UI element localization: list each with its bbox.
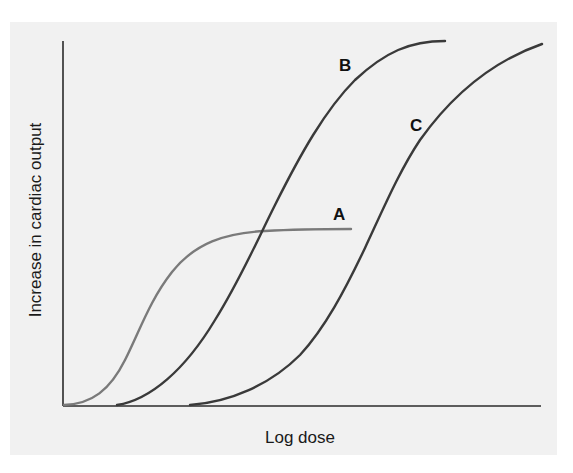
curve-a	[64, 229, 351, 405]
curve-label-c: C	[410, 116, 422, 135]
curve-label-b: B	[339, 56, 351, 75]
curve-b	[117, 41, 445, 405]
curve-label-a: A	[333, 205, 345, 224]
curve-c	[190, 44, 542, 405]
y-axis-title: Increase in cardiac output	[26, 122, 45, 317]
x-axis-title: Log dose	[265, 428, 335, 447]
dose-response-chart: A B C Log dose Increase in cardiac outpu…	[0, 0, 573, 473]
